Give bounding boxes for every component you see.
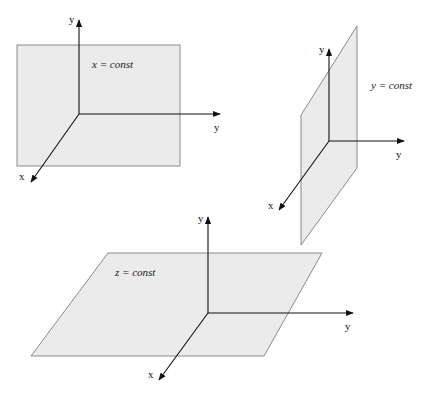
diagram-x-const: y y x x = const [17,13,220,182]
diagram-y-const: y y x y = const [268,26,413,245]
coordinate-planes-figure: y y x x = const y y x y = const y y x z … [0,0,432,397]
axis-label-horizontal: y [214,121,220,133]
axis-label-diagonal: x [148,368,154,380]
axis-label-vertical: y [198,212,204,224]
plane-label: y = const [370,79,413,91]
axis-label-vertical: y [319,43,325,55]
axis-label-vertical: y [69,13,75,25]
axis-label-horizontal: y [345,320,351,332]
plane-z-const [31,253,322,356]
axis-label-horizontal: y [396,148,402,160]
plane-label: x = const [91,58,134,70]
plane-label: z = const [114,266,156,278]
axis-label-diagonal: x [268,199,274,211]
axis-label-diagonal: x [19,170,25,182]
